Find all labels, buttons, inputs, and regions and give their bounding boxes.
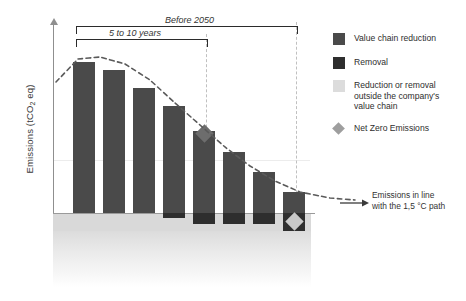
path-annotation: Emissions in line with the 1,5 °C path: [372, 190, 466, 211]
legend-item: Net Zero Emissions: [333, 123, 461, 135]
legend-item-label: Reduction or removal outside the company…: [354, 80, 461, 112]
legend-item: Reduction or removal outside the company…: [333, 80, 461, 112]
legend-item-label: Value chain reduction: [354, 33, 436, 44]
legend-swatch-icon: [333, 80, 345, 92]
legend-item: Removal: [333, 57, 461, 69]
legend-diamond-icon: [333, 123, 345, 135]
trend-arrow-icon: [340, 196, 370, 210]
legend-item: Value chain reduction: [333, 33, 461, 45]
legend-item-label: Removal: [354, 57, 388, 68]
bracket-inner: [76, 39, 208, 47]
bracket-outer: [76, 26, 298, 34]
legend: Value chain reductionRemovalReduction or…: [333, 33, 461, 147]
legend-swatch-icon: [333, 33, 345, 45]
bracket-outer-label: Before 2050: [161, 15, 218, 25]
path-annotation-line1: Emissions in line: [372, 190, 466, 201]
legend-swatch-icon: [333, 57, 345, 69]
legend-item-label: Net Zero Emissions: [354, 123, 429, 134]
path-annotation-line2: with the 1,5 °C path: [372, 201, 466, 212]
chart-figure: Emissions (tCO2 eq) 5 to 10 years Before…: [0, 0, 466, 301]
